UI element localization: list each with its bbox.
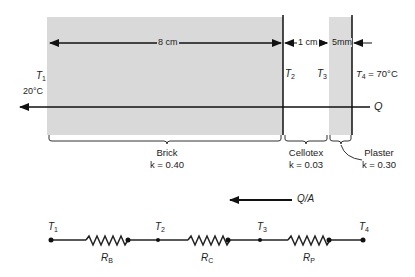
t4-label: T4 = 70°C [356, 69, 398, 80]
resistor-rc-label: RC [201, 253, 213, 264]
t1-value: 20°C [23, 87, 43, 96]
plaster-brace [330, 135, 351, 144]
node-t4 [361, 238, 366, 243]
brick-layer [47, 17, 283, 135]
node-t3 [258, 238, 262, 242]
wall-diagram [0, 0, 415, 277]
resistor-rp [288, 236, 330, 245]
cellotex-thickness-label: 1 cm [297, 38, 319, 47]
resistor-rb-label: RB [101, 253, 113, 264]
resistor-rp-label: RP [303, 253, 315, 264]
heat-flow-label: Q [374, 101, 383, 112]
t2-label: T2 [285, 69, 295, 80]
t3-label: T3 [317, 69, 327, 80]
cellotex-label: Cellotex k = 0.03 [283, 148, 329, 169]
resistor-rc [188, 236, 230, 245]
network-t3-label: T3 [257, 222, 267, 233]
brick-brace [49, 135, 281, 144]
node-t1 [49, 238, 54, 243]
network-t4-label: T4 [359, 222, 369, 233]
plaster-label: Plaster k = 0.30 [356, 148, 402, 169]
brick-thickness-label: 8 cm [157, 38, 179, 47]
cellotex-brace [285, 135, 327, 144]
t1-label: T1 [36, 71, 46, 82]
resistor-rb [86, 236, 128, 245]
flux-label: Q/A [297, 194, 314, 204]
brick-label: Brick k = 0.40 [145, 148, 189, 169]
resistance-network [51, 236, 363, 245]
node-t2 [156, 238, 160, 242]
network-t2-label: T2 [155, 222, 165, 233]
plaster-layer [329, 17, 352, 135]
network-t1-label: T1 [48, 222, 58, 233]
plaster-thickness-label: 5mm [332, 38, 352, 47]
